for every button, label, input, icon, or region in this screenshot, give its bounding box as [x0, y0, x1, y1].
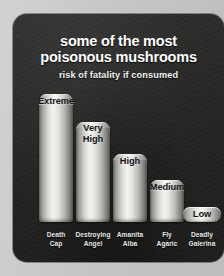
bar-destroying-angel[interactable]	[76, 122, 110, 222]
infographic-card: some of the most poisonous mushrooms ris…	[13, 14, 224, 262]
bar-death-cap[interactable]	[39, 94, 73, 222]
chart-header: some of the most poisonous mushrooms ris…	[13, 33, 224, 81]
x-axis-label-deadly-galerina: Deadly Galerina	[179, 231, 224, 248]
chart-subtitle: risk of fatality if consumed	[13, 70, 224, 81]
page-title-line-1: some of the most	[13, 33, 224, 49]
bar-deadly-galerina[interactable]	[183, 207, 221, 222]
page-title-line-2: poisonous mushrooms	[13, 49, 224, 65]
bar-amanita-alba[interactable]	[113, 154, 147, 222]
bar-fly-agaric[interactable]	[150, 180, 184, 222]
poster-stage: some of the most poisonous mushrooms ris…	[0, 0, 224, 276]
